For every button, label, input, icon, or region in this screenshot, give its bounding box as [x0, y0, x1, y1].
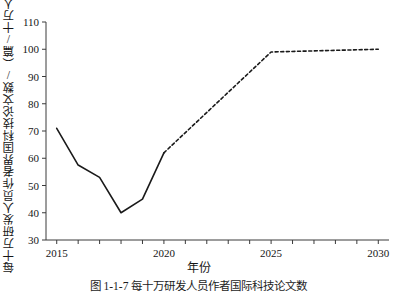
- series-line-dashed: [164, 49, 378, 153]
- figure-container: 每十万研发人员作者界国科技论文数/（篇/十万人） 304050607080901…: [0, 0, 397, 292]
- x-axis-title: 年份: [0, 258, 397, 276]
- y-tick-label: 40: [28, 207, 40, 219]
- y-tick-label: 70: [28, 125, 40, 137]
- y-tick-label: 90: [28, 71, 40, 83]
- y-tick-label: 50: [28, 180, 40, 192]
- y-tick-label: 30: [28, 234, 40, 246]
- y-tick-label: 80: [28, 98, 40, 110]
- y-tick-label: 100: [23, 43, 40, 55]
- series-line-solid: [57, 128, 164, 212]
- y-tick-label: 110: [23, 16, 40, 28]
- figure-caption: 图 1-1-7 每十万研发人员作者国际科技论文数: [0, 277, 397, 292]
- y-tick-label: 60: [28, 152, 40, 164]
- chart-plot: 304050607080901001102015202020252030: [0, 0, 397, 260]
